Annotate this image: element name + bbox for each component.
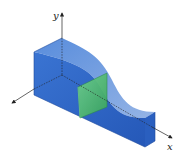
z-axis <box>12 89 34 103</box>
y-axis-label: y <box>52 10 59 21</box>
solid-cross-section-diagram: y x <box>0 0 181 157</box>
x-axis-label: x <box>167 141 173 152</box>
